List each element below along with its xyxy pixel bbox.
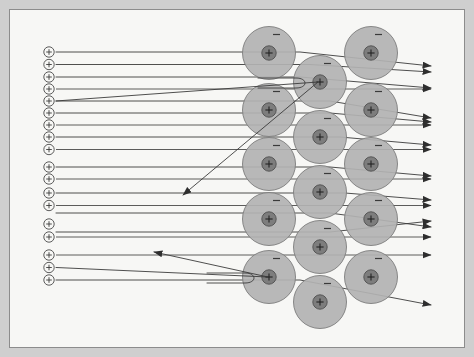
alpha-particle-source [44, 232, 54, 242]
alpha-particle-source [44, 162, 54, 172]
rutherford-scattering-figure [0, 0, 474, 357]
foil-atom [345, 138, 398, 191]
foil-atom [294, 56, 347, 109]
alpha-particle-source [44, 275, 54, 285]
alpha-particle-source [44, 132, 54, 142]
foil-atom [294, 166, 347, 219]
alpha-particle-source [44, 120, 54, 130]
alpha-particle-source [44, 108, 54, 118]
foil-atom [345, 251, 398, 304]
foil-atom [294, 111, 347, 164]
foil-atom [243, 27, 296, 80]
foil-atom [294, 221, 347, 274]
foil-atom [345, 84, 398, 137]
foil-atom [345, 193, 398, 246]
alpha-particle-source [44, 219, 54, 229]
alpha-particle-source [44, 84, 54, 94]
alpha-particle-source [44, 200, 54, 210]
foil-atom [345, 27, 398, 80]
alpha-particle-source [44, 262, 54, 272]
foil-atom [294, 276, 347, 329]
alpha-particle-source [44, 47, 54, 57]
foil-atom [243, 251, 296, 304]
foil-atom [243, 84, 296, 137]
alpha-particle-source [44, 174, 54, 184]
scattering-diagram-canvas [0, 0, 474, 357]
foil-atom [243, 193, 296, 246]
alpha-particle-source [44, 188, 54, 198]
alpha-particle-source [44, 144, 54, 154]
alpha-particle-source [44, 250, 54, 260]
alpha-particle-source [44, 59, 54, 69]
foil-atom-layer [243, 27, 398, 329]
foil-atom [243, 138, 296, 191]
alpha-particle-source [44, 96, 54, 106]
alpha-particle-source [44, 72, 54, 82]
